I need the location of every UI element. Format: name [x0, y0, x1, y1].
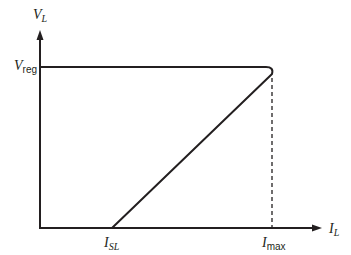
vreg-label: Vreg — [14, 59, 37, 75]
foldback-curve — [40, 67, 272, 228]
characteristic-plot — [0, 0, 351, 255]
y-axis-arrow-icon — [37, 30, 44, 40]
x-axis-label: IL — [329, 222, 339, 238]
x-axis-arrow-icon — [312, 225, 322, 232]
isl-label: ISL — [104, 236, 119, 252]
y-axis-label: VL — [33, 8, 47, 24]
imax-label: Imax — [262, 236, 286, 252]
